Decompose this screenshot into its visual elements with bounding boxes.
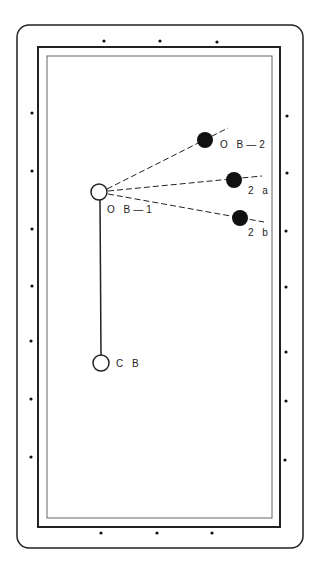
label-2b: 2 b xyxy=(248,227,271,238)
billiard-table-diagram: O B—2 2 a 2 b O B—1 C B xyxy=(0,0,318,578)
table-outer-rail xyxy=(17,25,303,548)
object-ball-2 xyxy=(197,132,213,148)
label-2a: 2 a xyxy=(248,185,271,196)
label-ob2: O B—2 xyxy=(220,139,268,150)
ball-position-2a xyxy=(226,172,242,188)
label-cb: C B xyxy=(116,358,142,369)
object-ball-1 xyxy=(91,184,107,200)
cue-ball xyxy=(93,355,109,371)
label-ob1: O B—1 xyxy=(107,204,155,215)
ball-position-2b xyxy=(232,210,248,226)
cue-ball-path xyxy=(100,200,101,355)
